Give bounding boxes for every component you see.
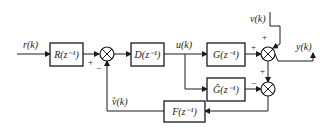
- disturbance-estimate-label: v̂(k): [112, 96, 128, 108]
- output-label: y(k): [295, 41, 312, 53]
- block-d-label: D(z⁻¹): [134, 49, 161, 61]
- sum2-g-sign: +: [251, 42, 256, 52]
- sum3-ghat-sign: −: [251, 78, 256, 88]
- block-diagram: r(k) R(z⁻¹) + − D(z⁻¹) u(k) G(z⁻¹) + v(k…: [0, 0, 330, 129]
- block-f-label: F(z⁻¹): [171, 106, 197, 118]
- block-ghat-label: Ĝ(z⁻¹): [213, 84, 239, 96]
- block-g-label: G(z⁻¹): [213, 49, 239, 61]
- summing-junction-3: [261, 82, 275, 96]
- input-label: r(k): [23, 39, 39, 51]
- disturbance-line: [270, 12, 280, 48]
- control-label: u(k): [176, 39, 193, 51]
- sum1-plus-sign: +: [88, 57, 93, 67]
- sum2-v-sign: +: [262, 32, 267, 42]
- sum1-minus-sign: −: [96, 63, 101, 73]
- summing-junction-1: [100, 47, 114, 61]
- u-branch-line: [185, 54, 207, 89]
- summing-junction-2: [261, 47, 275, 61]
- output-line: [275, 53, 313, 61]
- sum3-y-sign: +: [260, 66, 265, 76]
- disturbance-label: v(k): [250, 13, 266, 25]
- block-r-label: R(z⁻¹): [53, 49, 79, 61]
